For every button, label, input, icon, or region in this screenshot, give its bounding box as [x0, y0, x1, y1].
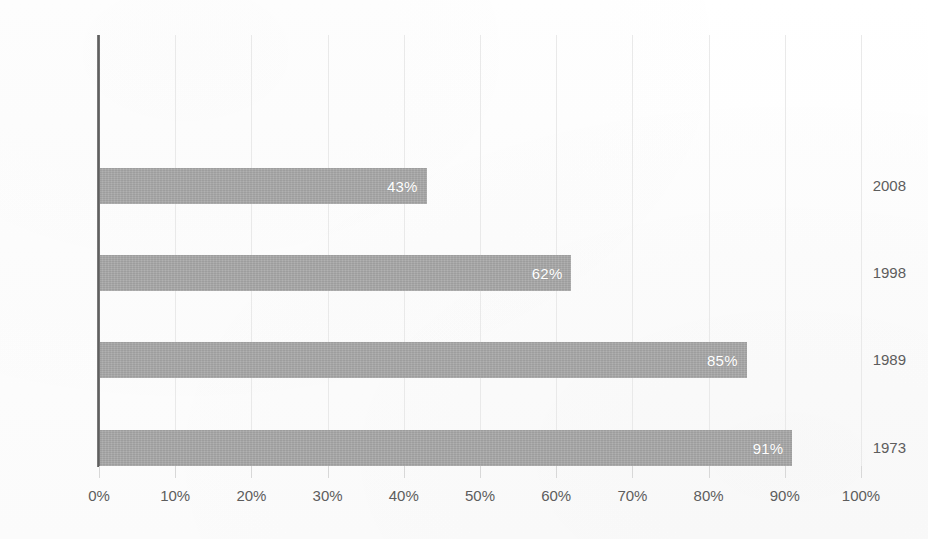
- x-tick-label-20pct: 20%: [221, 487, 281, 504]
- gridline-90pct: [785, 35, 786, 466]
- bar-row: 43%: [99, 168, 861, 204]
- x-tick-label-0pct: 0%: [69, 487, 129, 504]
- bar-value-label: 43%: [387, 178, 418, 195]
- x-tick-label-100pct: 100%: [831, 487, 891, 504]
- bar-1998: 62%: [99, 255, 571, 291]
- tick-stub: [328, 466, 329, 478]
- gridline-80pct: [709, 35, 710, 466]
- x-tick-label-50pct: 50%: [450, 487, 510, 504]
- x-tick-label-10pct: 10%: [145, 487, 205, 504]
- bar-1973: 91%: [99, 430, 792, 466]
- category-label-1998: 1998: [826, 264, 906, 281]
- tick-stub: [175, 466, 176, 478]
- bar-value-label: 85%: [707, 352, 738, 369]
- bar-value-label: 91%: [753, 440, 784, 457]
- category-label-1989: 1989: [826, 351, 906, 368]
- tick-stub: [99, 466, 100, 478]
- bar-2008: 43%: [99, 168, 427, 204]
- tick-stub: [404, 466, 405, 478]
- tick-stub: [632, 466, 633, 478]
- bar-1989: 85%: [99, 342, 747, 378]
- y-axis-line: [97, 35, 100, 467]
- x-tick-label-40pct: 40%: [374, 487, 434, 504]
- plot-area: 43%62%85%91%: [99, 35, 861, 466]
- gridline-40pct: [404, 35, 405, 466]
- bar-chart: 43%62%85%91% 2008199819891973 0%10%20%30…: [0, 0, 928, 539]
- bar-value-label: 62%: [532, 265, 563, 282]
- x-tick-label-30pct: 30%: [298, 487, 358, 504]
- gridline-50pct: [480, 35, 481, 466]
- tick-stub: [251, 466, 252, 478]
- gridline-70pct: [632, 35, 633, 466]
- x-tick-label-60pct: 60%: [526, 487, 586, 504]
- tick-stub: [785, 466, 786, 478]
- gridline-10pct: [175, 35, 176, 466]
- gridline-30pct: [328, 35, 329, 466]
- bar-row: 62%: [99, 255, 861, 291]
- tick-stub: [480, 466, 481, 478]
- gridline-100pct: [861, 35, 862, 466]
- tick-stub: [556, 466, 557, 478]
- tick-stub: [709, 466, 710, 478]
- x-tick-label-70pct: 70%: [602, 487, 662, 504]
- x-tick-label-80pct: 80%: [679, 487, 739, 504]
- x-tick-label-90pct: 90%: [755, 487, 815, 504]
- category-label-1973: 1973: [826, 439, 906, 456]
- gridline-20pct: [251, 35, 252, 466]
- bar-row: 85%: [99, 342, 861, 378]
- gridline-60pct: [556, 35, 557, 466]
- category-label-2008: 2008: [826, 177, 906, 194]
- bar-row: 91%: [99, 430, 861, 466]
- tick-stub: [861, 466, 862, 478]
